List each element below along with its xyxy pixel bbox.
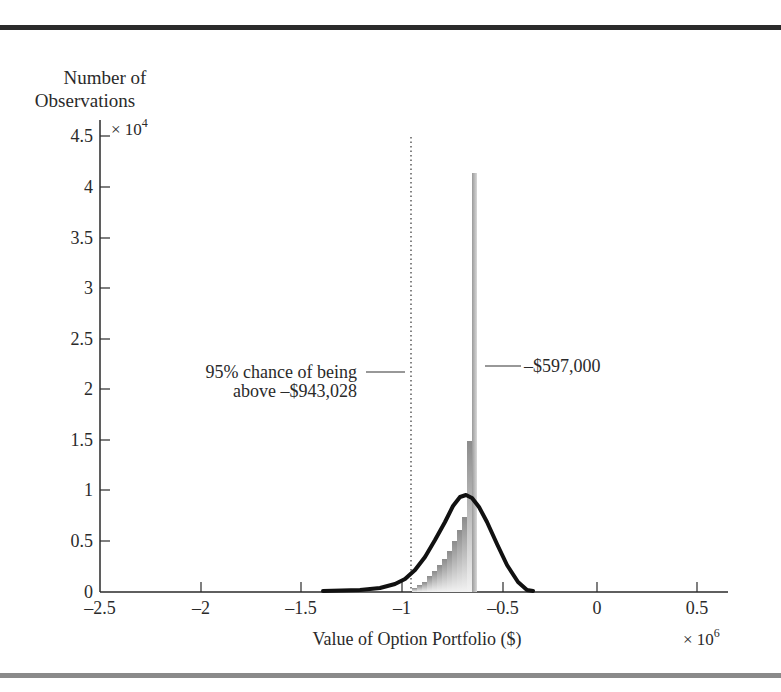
y-multiplier: × 104 (111, 116, 148, 139)
x-tick-label: –0.5 (486, 598, 519, 618)
histogram-bars (412, 173, 477, 592)
y-axis-label-line1: Number of (64, 67, 148, 88)
y-tick-label: 4.5 (71, 126, 94, 146)
y-tick-label: 4 (84, 177, 93, 197)
y-tick-label: 0.5 (71, 531, 94, 551)
y-tick-label: 1.5 (71, 430, 94, 450)
y-tick-labels: 0 0.5 1 1.5 2 2.5 3 3.5 4 4.5 (71, 126, 94, 602)
x-axis-label: Value of Option Portfolio ($) (313, 629, 522, 650)
y-tick-label: 1 (84, 480, 93, 500)
histogram-chart: Number of Observations × 104 0 0.5 1 1.5… (0, 0, 781, 692)
y-tick-label: 3.5 (71, 228, 94, 248)
var-annotation-line1: 95% chance of being (206, 362, 357, 382)
y-tick-label: 2 (84, 379, 93, 399)
x-tick-label: –2 (191, 598, 210, 618)
x-multiplier: × 106 (683, 626, 720, 649)
y-tick-label: 3 (84, 278, 93, 298)
x-tick-label: –1.5 (284, 598, 317, 618)
y-tick-label: 2.5 (71, 329, 94, 349)
x-tick-label: 0.5 (686, 598, 709, 618)
x-tick-label: –1 (392, 598, 411, 618)
x-tick-label: 0 (593, 598, 602, 618)
var-annotation-line2: above –$943,028 (233, 381, 357, 401)
y-axis-label-line2: Observations (35, 90, 135, 111)
x-tick-label: –2.5 (83, 598, 116, 618)
peak-annotation: –$597,000 (523, 356, 601, 376)
x-tick-labels: –2.5 –2 –1.5 –1 –0.5 0 0.5 (83, 598, 708, 618)
y-ticks (100, 136, 110, 541)
